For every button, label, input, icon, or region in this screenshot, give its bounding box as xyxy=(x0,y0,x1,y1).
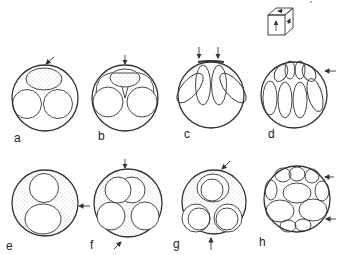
stray-dot xyxy=(310,1,312,3)
panel-label-h: h xyxy=(259,236,266,248)
panel-c-diagram xyxy=(172,47,250,128)
orientation-cube xyxy=(268,8,293,35)
panel-label-f: f xyxy=(90,239,93,251)
panel-b-diagram xyxy=(92,55,158,131)
panel-label-c: c xyxy=(184,128,190,140)
figure-canvas xyxy=(0,0,345,255)
panel-label-d: d xyxy=(268,128,275,140)
panel-d-diagram xyxy=(261,61,336,128)
panel-h-diagram xyxy=(264,166,336,232)
panel-label-a: a xyxy=(14,132,21,144)
panel-e-diagram xyxy=(12,170,90,236)
panel-a-diagram xyxy=(12,57,78,131)
panel-f-diagram xyxy=(94,159,162,249)
panel-label-e: e xyxy=(6,240,13,252)
panel-label-b: b xyxy=(98,130,105,142)
panel-g-diagram xyxy=(182,161,246,250)
panel-label-g: g xyxy=(173,238,180,250)
